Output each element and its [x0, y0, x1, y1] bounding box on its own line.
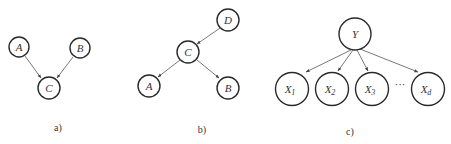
node-c: C — [177, 41, 199, 63]
node-b: B — [217, 77, 239, 99]
node-d: D — [217, 9, 239, 31]
edge-b-to-c — [57, 57, 73, 78]
node-a: A — [138, 75, 160, 97]
diagram-a: A B C a) — [9, 37, 90, 134]
node-x3: X3 — [356, 73, 389, 106]
node-b: B — [70, 38, 90, 58]
node-y: Y — [339, 18, 371, 50]
svg-text:B: B — [225, 82, 232, 94]
edge-y-to-x2 — [338, 50, 353, 71]
edge-c-to-a — [158, 60, 180, 77]
svg-text:B: B — [77, 42, 84, 54]
edge-y-to-x3 — [357, 50, 368, 71]
caption-a: a) — [54, 122, 62, 134]
node-a: A — [9, 37, 29, 57]
bayesian-network-figure: A B C a) D C A B b) — [0, 0, 451, 144]
svg-text:A: A — [15, 41, 23, 53]
svg-text:D: D — [223, 14, 232, 26]
svg-text:C: C — [45, 82, 53, 94]
node-x1: X1 — [276, 73, 309, 106]
caption-c: c) — [346, 126, 354, 138]
ellipsis: ··· — [395, 78, 406, 90]
svg-text:A: A — [145, 80, 153, 92]
diagram-c: Y X1 X2 X3 ··· Xd c) — [276, 18, 445, 138]
edge-a-to-c — [25, 56, 41, 78]
svg-text:C: C — [184, 46, 192, 58]
edge-y-to-x1 — [306, 50, 351, 72]
edge-y-to-xd — [360, 49, 418, 72]
edge-d-to-c — [197, 28, 220, 44]
edge-c-to-b — [197, 60, 219, 78]
node-c: C — [38, 77, 60, 99]
node-xd: Xd — [412, 73, 445, 106]
node-x2: X2 — [316, 73, 349, 106]
caption-b: b) — [198, 124, 206, 136]
diagram-b: D C A B b) — [138, 9, 239, 136]
